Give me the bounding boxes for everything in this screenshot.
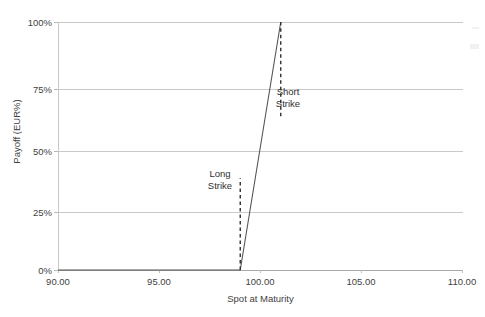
x-tick-mark-110 [462, 270, 463, 273]
x-tick-label-95: 95.00 [129, 276, 189, 287]
annotation-long-strike-line2: Strike [197, 180, 243, 192]
y-tick-mark-50 [54, 151, 58, 152]
gridline-100 [58, 22, 463, 23]
y-tick-label-0: 0% [8, 265, 52, 276]
gridline-50 [58, 151, 463, 152]
y-tick-label-25: 25% [8, 207, 52, 218]
x-tick-label-110: 110.00 [432, 276, 485, 287]
annotation-short-strike: Short Strike [265, 86, 311, 110]
x-tick-label-105: 105.00 [331, 276, 391, 287]
y-tick-mark-100 [54, 22, 58, 23]
payoff-chart: 100% 75% 50% 25% 0% 90.00 95.00 100.00 1… [0, 0, 485, 317]
annotation-short-strike-line2: Strike [265, 98, 311, 110]
y-tick-mark-25 [54, 212, 58, 213]
gridline-75 [58, 89, 463, 90]
y-tick-label-100: 100% [8, 17, 52, 28]
x-tick-label-90: 90.00 [28, 276, 88, 287]
annotation-long-strike-line1: Long [197, 168, 243, 180]
scan-artifact-top [470, 44, 479, 49]
x-axis-title: Spot at Maturity [0, 293, 485, 304]
y-tick-mark-75 [54, 89, 58, 90]
annotation-short-strike-line1: Short [265, 86, 311, 98]
plot-area [58, 22, 463, 270]
y-axis-title: Payoff (EUR%) [11, 77, 22, 187]
scan-artifact-bottom [472, 27, 479, 29]
x-tick-label-100: 100.00 [230, 276, 290, 287]
annotation-long-strike: Long Strike [197, 168, 243, 192]
gridline-25 [58, 212, 463, 213]
x-tick-mark-95 [159, 270, 160, 273]
x-tick-mark-90 [58, 270, 59, 273]
x-tick-mark-100 [260, 270, 261, 273]
x-tick-mark-105 [361, 270, 362, 273]
